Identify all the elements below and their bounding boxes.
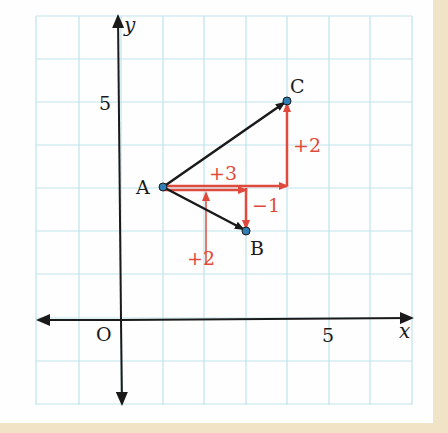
ac-vertical-label: +2 [293,134,321,156]
x-tick-label-5: 5 [322,324,334,346]
coordinate-diagram: y x O 5 5 A B C +3 +2 +2 −1 [0,0,448,433]
grid [36,16,412,405]
x-axis-label: x [399,319,410,343]
origin-label: O [96,323,112,345]
point-b [242,227,250,235]
point-c-label: C [290,75,305,97]
ab-horizontal-label: +2 [187,247,215,269]
component-arrows [163,104,287,265]
ac-horizontal-label: +3 [209,162,237,184]
point-a [159,183,167,191]
point-c [283,97,291,105]
y-tick-label-5: 5 [99,92,111,114]
point-b-label: B [250,237,264,259]
point-a-label: A [135,176,150,198]
y-axis-negative [121,320,122,404]
y-axis-label: y [123,13,136,37]
vector-ab [163,187,243,229]
ab-vertical-label: −1 [252,194,280,216]
